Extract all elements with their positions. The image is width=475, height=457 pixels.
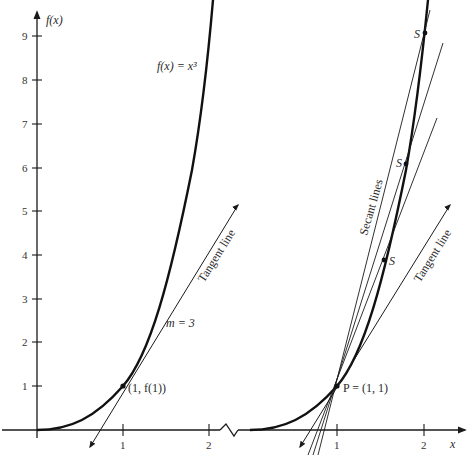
x-tick-left-1: 1	[120, 439, 126, 451]
x-axis	[2, 424, 465, 436]
tangent-secant-figure: 1 2 3 4 5 6 7 8 9 f(x) 1 2 1 2 x (1, f(1…	[0, 0, 475, 457]
y-tick-7: 7	[22, 118, 28, 130]
secant-lines-label: Secant lines	[356, 177, 385, 237]
point-p-label: P = (1, 1)	[343, 381, 388, 395]
secant-point-s3	[382, 258, 387, 263]
x-tick-right-2: 2	[421, 439, 427, 451]
y-tick-4: 4	[22, 249, 28, 261]
secant-point-label-1: S	[414, 27, 420, 41]
right-tangent-line	[300, 205, 450, 447]
y-tick-1: 1	[22, 380, 28, 392]
x-axis-label: x	[449, 437, 456, 451]
secant-point-s2	[404, 162, 409, 167]
function-label: f(x) = x³	[157, 59, 197, 73]
secant-point-s1	[423, 31, 428, 36]
slope-label: m = 3	[166, 316, 195, 330]
secant-point-label-3: S	[389, 254, 395, 268]
x-tick-right-1: 1	[334, 439, 340, 451]
left-tangent-label: Tangent line	[195, 227, 238, 285]
left-tangent-line	[90, 205, 238, 447]
right-tangent-label: Tangent line	[411, 227, 454, 285]
right-curve	[250, 0, 428, 430]
secant-point-label-2: S	[396, 156, 402, 170]
point-p	[334, 383, 339, 388]
left-point-label: (1, f(1))	[128, 381, 166, 395]
y-tick-9: 9	[22, 30, 28, 42]
y-tick-8: 8	[22, 74, 28, 86]
y-axis-label: f(x)	[46, 13, 63, 27]
left-tangent-point	[120, 383, 125, 388]
y-tick-3: 3	[22, 293, 28, 305]
y-tick-6: 6	[22, 162, 28, 174]
y-axis: 1 2 3 4 5 6 7 8 9 f(x)	[22, 12, 63, 438]
y-tick-2: 2	[22, 336, 28, 348]
x-tick-left-2: 2	[206, 439, 212, 451]
y-tick-5: 5	[22, 205, 28, 217]
